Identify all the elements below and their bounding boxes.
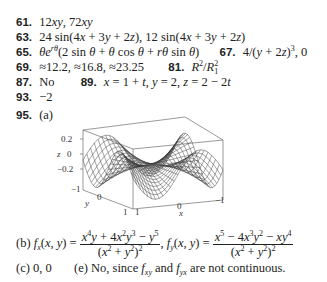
z-tick-0.2: 0.2: [61, 134, 72, 144]
answer-69-81: 69. ≈12.2, ≈16.8, ≈23.25 81. R2/R12: [16, 60, 218, 74]
z-axis-label: z: [56, 149, 61, 159]
y-axis-label: y: [84, 198, 89, 208]
answer-95c-e: (c) 0, 0 (e) No, since fxy and fyx are n…: [16, 261, 285, 275]
answer-93: 93. −2: [16, 90, 52, 104]
x-tick-1: 1: [135, 207, 140, 217]
answer-65-67: 65. θerθ(2 sin θ + θ cos θ + rθ sin θ) 6…: [16, 45, 307, 59]
answer-89-text: x = 1 + t, y = 2, z = 2 − 2t: [104, 75, 231, 89]
surface-wireframe: [83, 133, 223, 199]
fx-fraction: x4y + 4x2y3 − y5 (x2 + y2)2: [80, 230, 161, 259]
answer-93-text: −2: [39, 90, 52, 104]
fx-lhs: fx(x, y) =: [34, 236, 77, 250]
answer-87-89: 87. No 89. x = 1 + t, y = 2, z = 2 − 2t: [16, 75, 231, 89]
answer-95: 95. (a): [16, 108, 53, 122]
answer-87-text: No: [39, 75, 54, 89]
answer-95b: (b) fx(x, y) = x4y + 4x2y3 − y5 (x2 + y2…: [16, 228, 293, 259]
surface-plot: 0.2 0 −0.2 z −1 0 1 y 1 0 −1 x: [55, 112, 255, 217]
answer-95-text: (a): [39, 108, 53, 122]
part-c-text: 0, 0: [33, 261, 52, 275]
answer-67-text: 4/(y + 2z)3, 0: [243, 45, 308, 59]
answer-63-text: 24 sin(4x + 3y + 2z), 12 sin(4x + 3y + 2…: [39, 30, 245, 44]
answer-81-text: R2/R12: [191, 60, 218, 74]
y-tick-neg1: −1: [71, 184, 81, 194]
answer-63: 63. 24 sin(4x + 3y + 2z), 12 sin(4x + 3y…: [16, 30, 245, 44]
y-tick-0: 0: [97, 192, 102, 202]
answer-61: 61. 12xy, 72xy: [16, 15, 93, 29]
z-tick-0: 0: [67, 149, 72, 159]
fy-lhs: fy(x, y) =: [167, 236, 210, 250]
fy-fraction: x5 − 4x3y2 − xy4 (x2 + y2)2: [213, 230, 294, 259]
answer-61-text: 12xy, 72xy: [39, 15, 92, 29]
answer-65-text: θerθ(2 sin θ + θ cos θ + rθ sin θ): [39, 45, 199, 59]
x-axis-label: x: [178, 208, 183, 217]
x-tick-neg1: −1: [215, 195, 225, 205]
z-tick-neg0.2: −0.2: [57, 164, 73, 174]
answer-69-text: ≈12.2, ≈16.8, ≈23.25: [39, 60, 144, 74]
y-tick-1: 1: [123, 207, 128, 217]
part-e-text: No, since fxy and fyx are not continuous…: [91, 261, 285, 275]
